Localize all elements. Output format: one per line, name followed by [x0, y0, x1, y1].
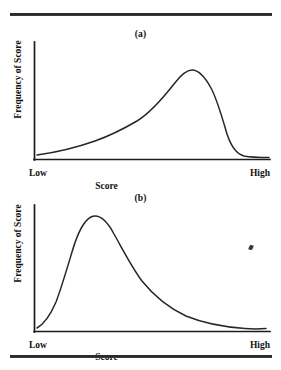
- panel-a-plot: [0, 26, 281, 191]
- figure-root: (a) Frequency of Score Low High Score (b…: [0, 0, 281, 370]
- panel-b-plot: [0, 190, 281, 355]
- panel-b-curve: [37, 216, 266, 329]
- panel-b: (b) Frequency of Score Low High Score: [0, 190, 281, 355]
- panel-b-x-axis-title: Score: [34, 352, 179, 363]
- top-divider-rule: [10, 13, 272, 15]
- bottom-divider-rule: [10, 355, 272, 357]
- panel-a-y-axis-title: Frequency of Score: [13, 25, 24, 135]
- panel-b-xtick-high: High: [238, 340, 270, 351]
- panel-b-xtick-low: Low: [29, 340, 47, 351]
- panel-a-xtick-low: Low: [29, 168, 47, 179]
- panel-b-y-axis-title: Frequency of Score: [13, 189, 24, 299]
- panel-a-curve: [37, 70, 269, 158]
- panel-a-xtick-high: High: [238, 168, 270, 179]
- panel-a: (a) Frequency of Score Low High Score: [0, 26, 281, 191]
